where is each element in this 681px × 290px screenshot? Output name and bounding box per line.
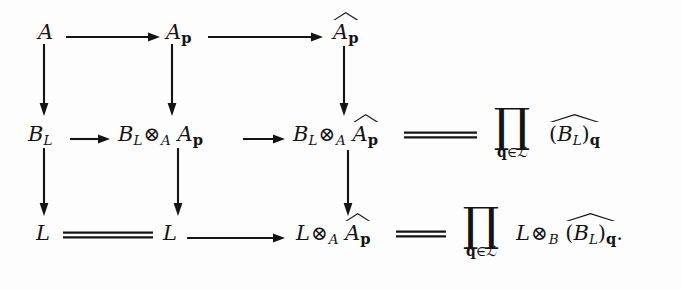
subscript-L: L xyxy=(589,232,598,247)
subscript-p: p xyxy=(368,131,378,148)
script-L: ℒ xyxy=(517,144,527,160)
subscript-B: B xyxy=(549,232,559,247)
arrow-BLtnsAphat-to-LtnsAphat xyxy=(342,150,354,216)
hat-icon xyxy=(353,114,378,123)
commutative-diagram: A Ap Ap xyxy=(0,0,681,290)
open-paren: ( xyxy=(549,122,557,146)
hat-icon xyxy=(333,12,358,21)
symbol-B: B xyxy=(557,122,572,146)
wide-hat-accent: Ap xyxy=(333,22,358,46)
tensor-icon: ⊗ xyxy=(317,122,336,146)
node-BL: BL xyxy=(28,124,52,148)
hat-icon xyxy=(549,114,600,123)
element-of-icon: ∈ xyxy=(476,243,486,259)
subscript-p: p xyxy=(360,230,370,247)
arrow-BLtnsAp-to-L2 xyxy=(172,148,184,216)
subscript-q: q xyxy=(590,131,600,148)
symbol-L: L xyxy=(163,221,177,245)
symbol-A: A xyxy=(166,20,181,44)
subscript-p: p xyxy=(348,29,358,46)
subscript-q: q xyxy=(606,230,616,247)
symbol-A: A xyxy=(38,20,53,44)
arrow-BL-to-BLtnsAp xyxy=(70,133,110,145)
subscript-p: p xyxy=(193,131,203,148)
symbol-L: L xyxy=(296,221,310,245)
wide-hat-accent: Ap xyxy=(345,223,370,247)
symbol-A: A xyxy=(333,20,348,44)
product-operator-row3: ∏ q∈ℒ xyxy=(450,207,512,258)
subscript-A: A xyxy=(161,133,171,148)
arrow-Ap-to-Aphat xyxy=(208,31,323,43)
symbol-A: A xyxy=(178,122,193,146)
symbol-B: B xyxy=(118,122,133,146)
node-Ap-hat: Ap xyxy=(333,22,358,46)
subscript-A: A xyxy=(329,232,339,247)
wide-hat-accent: (BL)q xyxy=(565,223,616,247)
close-paren: ) xyxy=(598,221,606,245)
index-q: q xyxy=(466,243,476,259)
wide-hat-accent: Ap xyxy=(353,124,378,148)
hat-icon xyxy=(565,213,616,222)
product-subscript-row2: q∈ℒ xyxy=(481,145,543,159)
arrow-A-to-BL xyxy=(38,44,50,116)
equality-L-L xyxy=(63,231,153,239)
symbol-A: A xyxy=(353,122,368,146)
element-of-icon: ∈ xyxy=(507,144,517,160)
wide-hat-accent: (BL)q xyxy=(549,124,600,148)
arrow-A-to-Ap xyxy=(66,31,160,43)
product-operator-row2: ∏ q∈ℒ xyxy=(481,108,543,159)
symbol-B: B xyxy=(573,221,588,245)
node-L-first: L xyxy=(36,223,50,244)
subscript-p: p xyxy=(181,29,191,46)
product-icon: ∏ xyxy=(450,207,512,243)
node-L-tensor-Aphat: L⊗A Ap xyxy=(296,223,371,247)
node-BL-tensor-Aphat: BL⊗A Ap xyxy=(293,124,378,148)
arrow-Ap-to-BLtnsAp xyxy=(166,44,178,116)
symbol-B: B xyxy=(293,122,308,146)
script-L: ℒ xyxy=(486,243,496,259)
node-BL-tensor-Ap: BL⊗A Ap xyxy=(118,124,203,148)
arrow-BLtnsAp-to-BLtnsAphat xyxy=(243,133,285,145)
equality-LtnsAphat-product xyxy=(396,230,446,238)
subscript-L: L xyxy=(573,133,582,148)
symbol-L: L xyxy=(36,221,50,245)
arrow-BL-to-L1 xyxy=(38,148,50,216)
arrow-Aphat-to-BLtnsAphat xyxy=(338,46,350,116)
symbol-B: B xyxy=(28,122,43,146)
subscript-A: A xyxy=(336,133,346,148)
arrow-L2-to-LtnsAphat xyxy=(187,232,285,244)
close-paren: ) xyxy=(582,122,590,146)
product-icon: ∏ xyxy=(481,108,543,144)
node-Ap: Ap xyxy=(166,22,191,46)
symbol-L: L xyxy=(516,221,530,245)
node-A: A xyxy=(38,22,53,43)
node-L-second: L xyxy=(163,223,177,244)
subscript-L: L xyxy=(43,133,52,148)
tensor-icon: ⊗ xyxy=(530,221,549,245)
symbol-A: A xyxy=(345,221,360,245)
tensor-icon: ⊗ xyxy=(142,122,161,146)
node-product-BLq-hat: (BL)q xyxy=(549,124,600,148)
node-L-tensor-B-BLq-hat: L⊗B (BL)q. xyxy=(516,223,623,247)
equality-BLtnsAphat-product xyxy=(404,131,477,139)
product-subscript-row3: q∈ℒ xyxy=(450,244,512,258)
index-q: q xyxy=(497,144,507,160)
tensor-icon: ⊗ xyxy=(310,221,329,245)
trailing-period: . xyxy=(616,221,623,245)
